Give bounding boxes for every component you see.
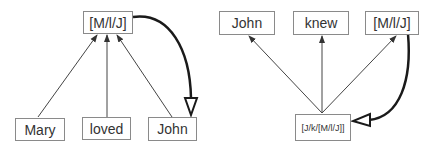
node-left-john: John	[148, 117, 197, 141]
node-left-mary: Mary	[15, 118, 65, 141]
thick-arrow-mlj-to-john	[133, 17, 191, 98]
node-left-loved: loved	[82, 117, 131, 140]
node-right-knew: knew	[293, 11, 349, 35]
hollow-arrowhead-icon	[353, 114, 370, 126]
node-left-top: [M/l/J]	[83, 11, 133, 34]
edge-mary-to-mlj	[38, 35, 97, 117]
node-right-mlj: [M/l/J]	[365, 11, 419, 35]
node-right-bottom: [J/k/[M/l/J]]	[295, 114, 351, 141]
edge-john-to-mlj	[117, 35, 172, 117]
node-right-john: John	[219, 11, 275, 35]
thick-arrow-mlj-to-bottom	[369, 34, 409, 120]
edge-bottom-to-mlj	[322, 36, 396, 113]
edge-bottom-to-john	[249, 36, 322, 113]
hollow-arrowhead-icon	[185, 98, 197, 115]
